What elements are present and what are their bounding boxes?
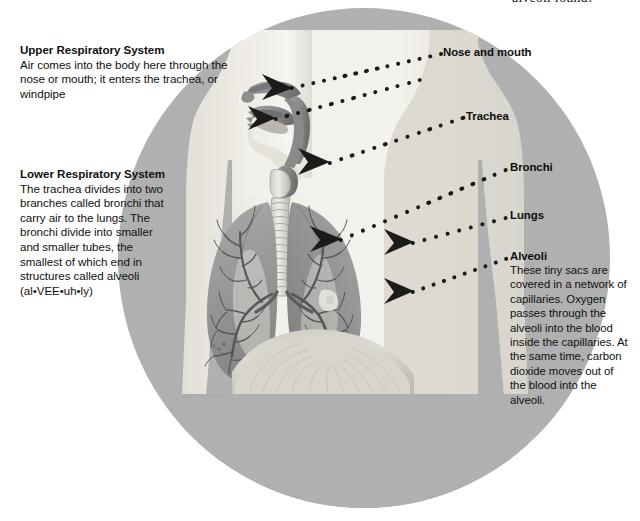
callout-label-nose-and-mouth: Nose and mouth [443, 46, 532, 59]
lower-respiratory-text-block: Lower Respiratory System The trachea div… [20, 167, 170, 298]
lower-respiratory-body: The trachea divides into two branches ca… [20, 182, 170, 299]
callout-label-lungs: Lungs [510, 209, 544, 222]
upper-respiratory-text-block: Upper Respiratory System Air comes into … [20, 43, 252, 101]
upper-respiratory-body: Air comes into the body here through the… [20, 58, 252, 102]
callout-body-alveoli: These tiny sacs are covered in a network… [510, 263, 632, 407]
callout-label-alveoli: Alveoli [510, 250, 547, 263]
lower-respiratory-heading: Lower Respiratory System [20, 167, 170, 182]
upper-respiratory-heading: Upper Respiratory System [20, 43, 252, 58]
callout-label-bronchi: Bronchi [510, 161, 553, 174]
diagram-canvas: alveoli found? [0, 0, 640, 521]
callout-label-trachea: Trachea [466, 110, 509, 123]
